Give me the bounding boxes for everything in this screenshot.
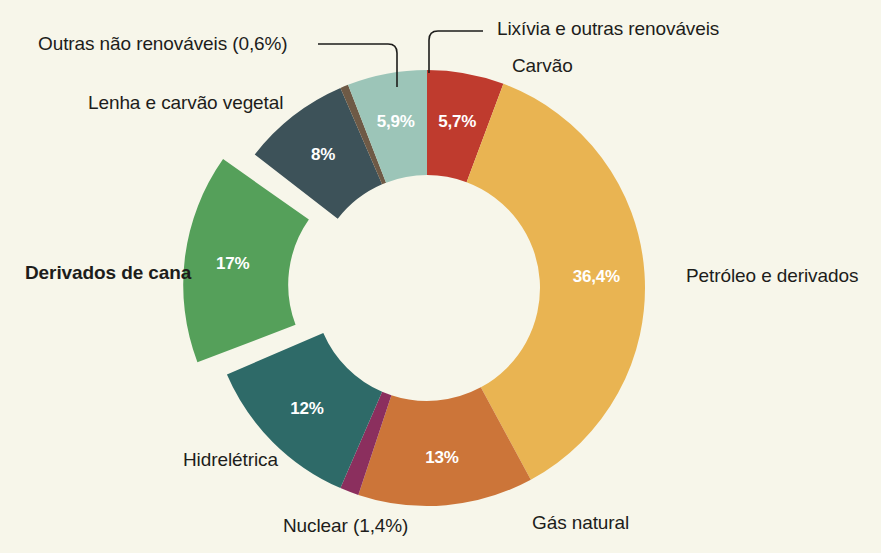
slice-value-label: 8% <box>311 145 335 164</box>
label-gas-natural: Gás natural <box>532 512 629 534</box>
label-lixivia-e-outras-renovaveis: Lixívia e outras renováveis <box>497 18 719 40</box>
label-outras-nao-renovaveis: Outras não renováveis (0,6%) <box>38 33 288 55</box>
energy-matrix-donut-chart: 5,7%36,4%13%12%17%8%5,9% Outras não reno… <box>0 0 881 553</box>
slice-value-label: 12% <box>290 399 324 418</box>
slice-value-label: 5,7% <box>438 112 476 131</box>
label-carvao: Carvão <box>512 55 573 77</box>
leader-line-lixivia <box>429 31 483 73</box>
label-petroleo-e-derivados: Petróleo e derivados <box>686 265 858 287</box>
label-lenha-e-carvao-vegetal: Lenha e carvão vegetal <box>88 92 283 114</box>
slice-value-label: 17% <box>216 254 250 273</box>
slice-value-label: 13% <box>425 448 459 467</box>
label-nuclear: Nuclear (1,4%) <box>283 515 408 537</box>
label-derivados-de-cana: Derivados de cana <box>25 262 191 284</box>
donut-slices <box>183 70 645 506</box>
slice-value-label: 36,4% <box>573 267 620 286</box>
label-hidreletrica: Hidrelétrica <box>183 449 278 471</box>
slice-value-label: 5,9% <box>377 112 415 131</box>
